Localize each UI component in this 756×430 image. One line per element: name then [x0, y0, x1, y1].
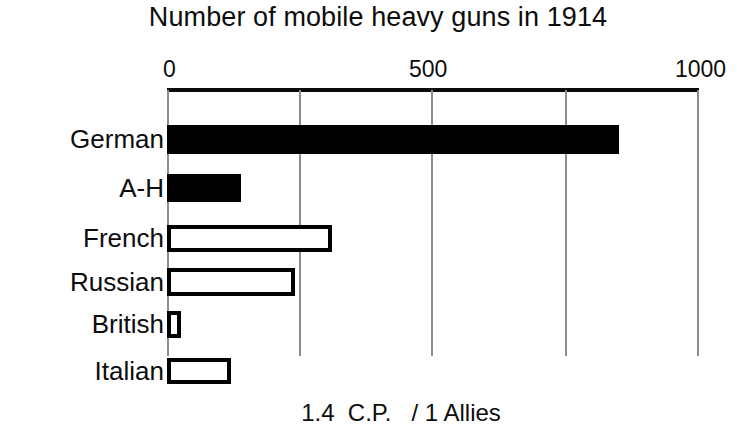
bar-russian — [167, 268, 295, 296]
bar-british — [167, 311, 181, 338]
bar-german — [167, 125, 619, 154]
bar-category-label-german: German — [70, 126, 164, 152]
chart-canvas: Number of mobile heavy guns in 1914 0 50… — [0, 0, 756, 430]
bar-category-label-french: French — [83, 225, 164, 251]
bar-category-label-ah: A-H — [119, 175, 164, 201]
bars-layer: German A-H French Russian British Italia… — [0, 0, 756, 430]
bar-category-label-british: British — [92, 311, 164, 337]
chart-annotation: 1.4 C.P. / 1 Allies — [0, 399, 756, 427]
bar-italian — [167, 358, 231, 384]
bar-category-label-italian: Italian — [95, 358, 164, 384]
bar-ah — [167, 174, 241, 202]
bar-category-label-russian: Russian — [70, 269, 164, 295]
bar-french — [167, 225, 332, 252]
